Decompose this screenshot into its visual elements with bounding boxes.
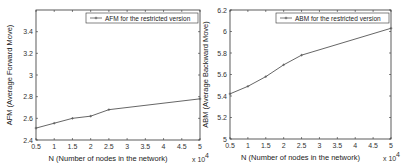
y-tick-label: 5.8 (217, 50, 227, 57)
x-tick-label: 2 (89, 143, 93, 150)
figure: 0.511.522.533.544.552.42.62.833.23.4N (N… (0, 0, 403, 167)
x-scale-exponent: 4 (396, 151, 400, 158)
x-tick-label: 4.5 (368, 142, 378, 149)
y-tick-label: 5.4 (217, 93, 227, 100)
y-tick-label: 2.4 (23, 137, 33, 144)
plot-frame (230, 10, 391, 139)
y-tick-label: 3.4 (23, 28, 33, 35)
x-tick-label: 5 (198, 143, 202, 150)
series-line (230, 28, 391, 94)
x-tick-label: 1.5 (68, 143, 78, 150)
x-tick-label: 5 (389, 142, 393, 149)
y-tick-label: 5.2 (217, 114, 227, 121)
y-tick-label: 6.2 (217, 7, 227, 14)
x-tick-label: 3 (317, 142, 321, 149)
series-line (36, 99, 200, 128)
x-tick-label: 0.5 (225, 142, 235, 149)
plot-frame (36, 10, 200, 140)
x-axis-label: N (Number of nodes in the network) (241, 153, 360, 162)
x-tick-label: 1 (52, 143, 56, 150)
x-scale-note: x 10 (192, 156, 205, 163)
x-tick-label: 1.5 (261, 142, 271, 149)
x-tick-label: 2 (282, 142, 286, 149)
y-tick-label: 3 (29, 72, 33, 79)
x-tick-label: 0.5 (31, 143, 41, 150)
y-tick-label: 3.2 (23, 50, 33, 57)
x-tick-label: 3.5 (332, 142, 342, 149)
x-tick-label: 2.5 (104, 143, 114, 150)
y-tick-label: 6 (223, 28, 227, 35)
x-tick-label: 2.5 (297, 142, 307, 149)
x-axis-label: N (Number of nodes in the network) (49, 154, 168, 163)
x-scale-note: x 10 (383, 155, 396, 162)
x-tick-label: 3 (125, 143, 129, 150)
y-tick-label: 5.6 (217, 71, 227, 78)
x-tick-label: 4 (353, 142, 357, 149)
y-tick-label: 2.6 (23, 115, 33, 122)
legend-label: AFM for the restricted version (105, 15, 191, 22)
legend-label: ABM for the restricted version (295, 15, 381, 22)
y-axis-label: ABM (Average Backward Move) (201, 21, 210, 128)
x-tick-label: 1 (246, 142, 250, 149)
x-tick-label: 4.5 (177, 143, 187, 150)
y-axis-label: AFM (Average Forward Move) (5, 24, 14, 125)
x-tick-label: 3.5 (140, 143, 150, 150)
y-tick-label: 2.8 (23, 93, 33, 100)
x-tick-label: 4 (162, 143, 166, 150)
x-scale-exponent: 4 (205, 152, 209, 159)
y-tick-label: 5 (223, 136, 227, 143)
